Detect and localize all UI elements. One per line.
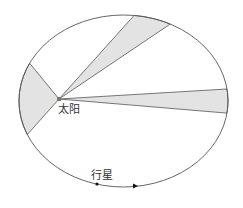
planet-label: 行星 (91, 170, 113, 181)
top-sector (59, 15, 170, 99)
direction-arrow-icon (133, 184, 138, 189)
diagram-canvas (0, 0, 243, 208)
sun-label: 太阳 (58, 104, 80, 115)
left-sector (19, 63, 59, 134)
planet-dot (95, 182, 98, 185)
right-sector (59, 89, 228, 113)
equal-area-sectors (19, 15, 228, 134)
sun-marker (57, 97, 61, 101)
kepler-diagram: 太阳 行星 (0, 0, 243, 208)
